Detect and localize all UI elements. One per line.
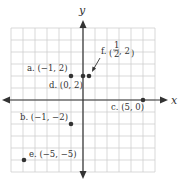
x-axis-label: x <box>171 94 178 107</box>
x-axis: x <box>2 94 178 107</box>
point-e-label: e. (−5, −5) <box>29 149 77 159</box>
point-a-label: a. (−1, 2) <box>27 63 67 73</box>
point-b-label: b. (−1, −2) <box>20 112 68 122</box>
y-axis: y <box>78 4 87 179</box>
y-axis-down-arrow-icon <box>80 171 87 179</box>
point-f-label: f. ( 1 2 , 2 ) <box>101 40 134 59</box>
x-axis-right-arrow-icon <box>160 97 168 104</box>
svg-text:): ) <box>131 48 134 58</box>
svg-text:f.: f. <box>101 46 107 56</box>
point-a-dot-icon <box>69 74 74 79</box>
svg-text:, 2: , 2 <box>119 46 130 56</box>
point-b-dot-icon <box>69 122 74 127</box>
coordinate-plane: x y a. (−1, 2) b. (−1, −2) c. (5, 0) d. … <box>0 0 180 179</box>
point-d-label: d. (0, 2) <box>49 80 83 90</box>
svg-text:(: ( <box>109 48 112 58</box>
point-c-label: c. (5, 0) <box>111 102 144 112</box>
point-d-dot-icon <box>81 74 86 79</box>
x-axis-left-arrow-icon <box>2 97 10 104</box>
point-e-dot-icon <box>22 158 27 163</box>
y-axis-label: y <box>78 4 86 17</box>
point-f-dot-icon <box>87 74 92 79</box>
y-axis-up-arrow-icon <box>80 20 87 28</box>
